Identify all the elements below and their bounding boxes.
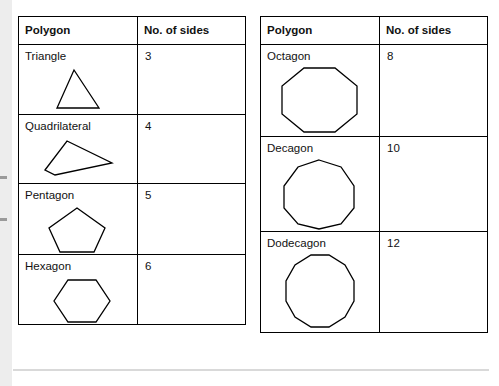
margin-tick-lower	[0, 218, 7, 221]
cell-sides-pentagon: 5	[138, 183, 246, 254]
dodecagon-shape	[267, 250, 379, 332]
page-bottom-rule	[13, 369, 489, 371]
cell-sides-dodecagon: 12	[380, 231, 488, 332]
polygon-name-label: Decagon	[267, 142, 379, 155]
decagon-shape	[267, 155, 379, 231]
cell-polygon-decagon: Decagon	[261, 137, 380, 232]
cell-sides-decagon: 10	[380, 137, 488, 232]
cell-polygon-dodecagon: Dodecagon	[261, 231, 380, 332]
polygon-name-label: Hexagon	[25, 260, 137, 273]
polygon-name-label: Triangle	[25, 50, 137, 63]
cell-sides-hexagon: 6	[138, 254, 246, 325]
polygon-table-right: Polygon No. of sides Octagon 8 Decagon	[260, 16, 488, 333]
table-row: Decagon 10	[261, 137, 488, 232]
cell-polygon-triangle: Triangle	[19, 44, 138, 115]
octagon-shape	[267, 62, 379, 136]
margin-tick-upper	[0, 176, 7, 179]
header-polygon: Polygon	[19, 17, 138, 45]
cell-polygon-hexagon: Hexagon	[19, 254, 138, 325]
document-page: Polygon No. of sides Triangle 3 Quadrila…	[0, 0, 499, 386]
table-header-row: Polygon No. of sides	[19, 17, 246, 45]
cell-polygon-pentagon: Pentagon	[19, 183, 138, 254]
polygon-name-label: Quadrilateral	[25, 120, 137, 133]
table-row: Octagon 8	[261, 44, 488, 137]
table-row: Triangle 3	[19, 44, 246, 115]
header-sides: No. of sides	[380, 17, 488, 45]
cell-sides-quadrilateral: 4	[138, 115, 246, 184]
hexagon-shape	[25, 272, 137, 324]
page-left-margin-band	[0, 0, 12, 386]
header-polygon: Polygon	[261, 17, 380, 45]
table-header-row: Polygon No. of sides	[261, 17, 488, 45]
triangle-shape	[25, 62, 137, 114]
polygon-name-label: Octagon	[267, 50, 379, 63]
table-row: Quadrilateral 4	[19, 115, 246, 184]
header-sides: No. of sides	[138, 17, 246, 45]
quadrilateral-shape	[25, 133, 137, 183]
table-row: Pentagon 5	[19, 183, 246, 254]
table-row: Hexagon 6	[19, 254, 246, 325]
polygon-name-label: Dodecagon	[267, 237, 379, 250]
table-row: Dodecagon 12	[261, 231, 488, 332]
cell-polygon-quadrilateral: Quadrilateral	[19, 115, 138, 184]
pentagon-shape	[25, 202, 137, 254]
cell-sides-octagon: 8	[380, 44, 488, 137]
polygon-table-left: Polygon No. of sides Triangle 3 Quadrila…	[18, 16, 246, 325]
cell-polygon-octagon: Octagon	[261, 44, 380, 137]
cell-sides-triangle: 3	[138, 44, 246, 115]
polygon-name-label: Pentagon	[25, 189, 137, 202]
